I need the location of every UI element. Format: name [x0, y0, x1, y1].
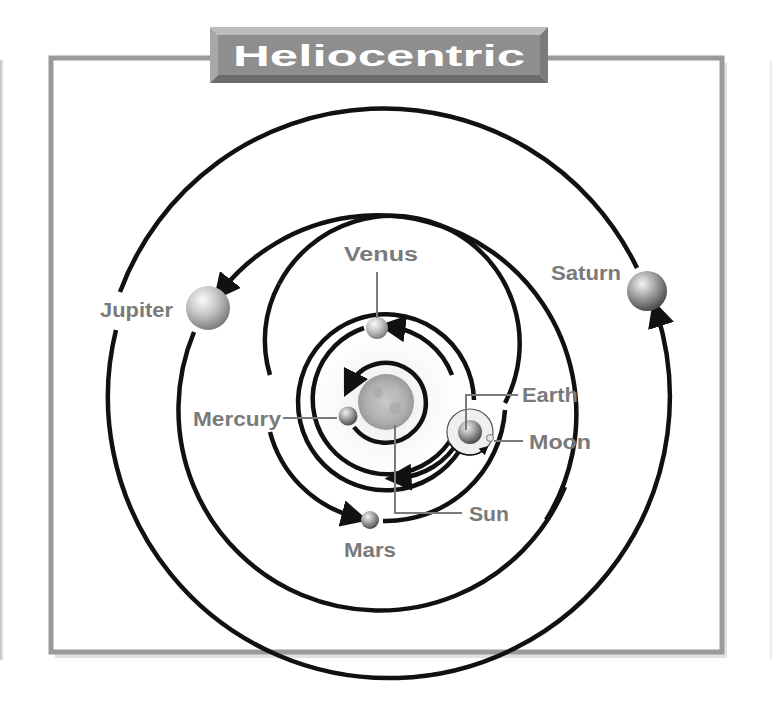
planet-saturn: [627, 271, 667, 311]
label-earth: Earth: [522, 384, 578, 406]
planet-jupiter: [186, 286, 230, 330]
planet-venus: [366, 317, 388, 339]
title-banner: Heliocentric: [210, 27, 548, 83]
heliocentric-diagram: Venus Saturn Jupiter Mercury Earth Moon …: [0, 0, 772, 705]
planet-earth: [458, 420, 482, 444]
planet-mercury: [339, 407, 358, 426]
title: Heliocentric: [233, 40, 525, 72]
label-saturn: Saturn: [551, 262, 621, 284]
adjacent-panel-edge-left: [0, 60, 4, 660]
label-sun: Sun: [469, 503, 509, 525]
sun: [358, 374, 414, 430]
label-mercury: Mercury: [193, 408, 282, 430]
planet-mars: [361, 511, 379, 529]
moon: [487, 435, 494, 442]
label-moon: Moon: [529, 431, 591, 453]
label-mars: Mars: [344, 539, 396, 561]
label-venus: Venus: [344, 243, 418, 265]
label-jupiter: Jupiter: [100, 299, 173, 321]
